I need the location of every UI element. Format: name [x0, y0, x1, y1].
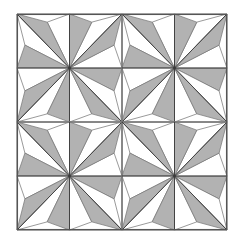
- quilt-pattern-diagram: [0, 0, 240, 243]
- star-center-node: [173, 67, 176, 70]
- star-center-node: [68, 175, 71, 178]
- block-bottom-left: [17, 122, 122, 230]
- star-center-node: [68, 67, 71, 70]
- block-top-left: [17, 14, 122, 122]
- star-center-node: [173, 175, 176, 178]
- star-block-grid: [17, 14, 227, 230]
- block-top-right: [122, 14, 227, 122]
- figure-canvas: [0, 0, 240, 243]
- block-bottom-right: [122, 122, 227, 230]
